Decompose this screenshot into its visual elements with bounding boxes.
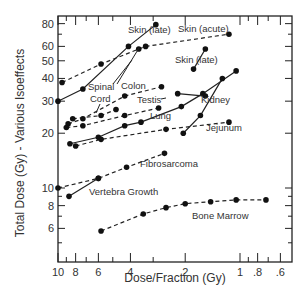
y-tick-label: 20 — [42, 127, 54, 139]
label-bone-marrow: Bone Marrow — [192, 210, 249, 221]
y-tick-label: 80 — [42, 18, 54, 30]
series-fibrosarcoma — [55, 151, 167, 191]
y-axis-title: Total Dose (Gy) - Various Isoeffects — [13, 49, 27, 237]
isoeffect-chart: 1086421.8.68060504030201086 Skin (late) … — [0, 0, 306, 294]
label-skin-late-right: Skin (late) — [175, 54, 218, 65]
label-cord: Cord — [90, 93, 111, 104]
y-tick-label: 8 — [48, 200, 54, 212]
label-vertebra-growth: Vertebra Growth — [89, 186, 158, 197]
axis-tick-labels: 1086421.8.68060504030201086 — [42, 18, 285, 278]
y-tick-label: 60 — [42, 40, 54, 52]
y-tick-label: 10 — [42, 182, 54, 194]
y-tick-label: 40 — [42, 72, 54, 84]
x-tick-label: 1 — [237, 266, 243, 278]
label-jejunum: Jejunum — [206, 122, 242, 133]
label-lung: Lung — [150, 110, 171, 121]
label-colon: Colon — [121, 80, 146, 91]
x-tick-label: 8 — [73, 266, 79, 278]
label-testis: Testis — [137, 94, 162, 105]
label-skin-acute: Skin (acute) — [178, 23, 229, 34]
series-testis — [64, 105, 162, 130]
label-kidney: Kidney — [201, 94, 230, 105]
x-axis-title: Dose/Fraction (Gy) — [124, 271, 225, 285]
x-tick-label: .8 — [253, 266, 262, 278]
y-tick-label: 6 — [48, 222, 54, 234]
y-tick-label: 50 — [42, 55, 54, 67]
label-fibrosarcoma: Fibrosarcoma — [140, 158, 199, 169]
label-spinal: Spinal — [88, 81, 114, 92]
label-skin-late-top: Skin (late) — [128, 24, 171, 35]
y-tick-label: 30 — [42, 95, 54, 107]
x-tick-label: .6 — [276, 266, 285, 278]
x-tick-label: 10 — [52, 266, 64, 278]
x-tick-label: 6 — [95, 266, 101, 278]
